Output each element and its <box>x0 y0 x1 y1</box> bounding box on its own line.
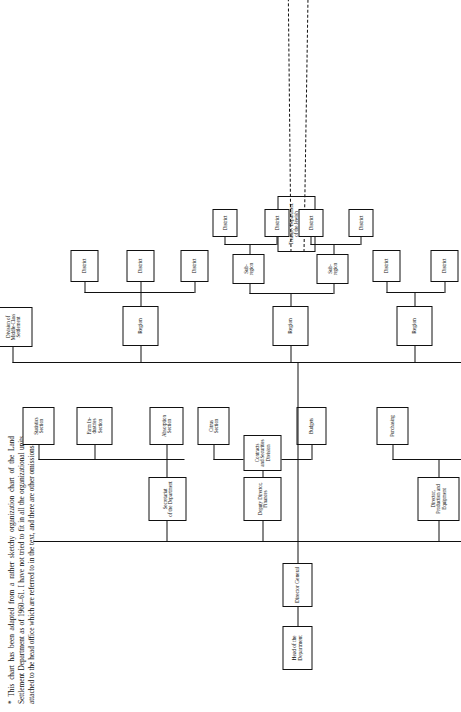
node-district: District <box>126 250 154 282</box>
node-director-general: Director General <box>282 563 312 607</box>
node-label-line: Director General <box>294 567 300 603</box>
node-label-line: Section <box>97 417 102 434</box>
connector-regions-to-region-2 <box>290 345 291 363</box>
connector-subregion-b-to-district-a <box>310 236 311 245</box>
connector-region-3-spine <box>386 292 444 293</box>
node-citrus-section: Citrus Section <box>197 407 229 445</box>
connector-production-spine <box>392 459 461 460</box>
node-label-line: region <box>248 263 253 275</box>
chart-footnote: * This chart has been adapted from a rat… <box>6 436 37 704</box>
connector-dg-to-secretariat <box>166 520 167 542</box>
connector-subregion-a-stem <box>249 244 250 254</box>
connector-region-1-stem <box>140 292 141 306</box>
node-district: District <box>298 209 323 237</box>
connector-finances-to-budgets <box>311 444 312 460</box>
connector-secretariat-to-farm <box>94 444 95 460</box>
connector-secretariat-spine <box>38 459 184 460</box>
node-label-line: Section <box>38 417 43 434</box>
node-label-line: region <box>332 263 337 275</box>
node-label-line: District <box>441 259 446 273</box>
node-label-line: District <box>358 216 363 230</box>
node-label-line: Region <box>411 318 417 334</box>
node-district: District <box>212 209 237 237</box>
connector-subregion-a-to-district-a <box>224 236 225 245</box>
node-statistics-section: Statistics Section <box>22 407 54 445</box>
node-label-line: Settlement <box>15 314 20 340</box>
node-region: Region <box>396 306 432 346</box>
connector-regions-to-middleclass <box>12 346 13 363</box>
connector-subregion-a-spine <box>224 244 276 245</box>
node-label-line: District <box>274 216 279 230</box>
org-chart-canvas: * This chart has been adapted from a rat… <box>0 0 461 712</box>
node-farm-industries-section: Farm In- dustries Section <box>76 407 112 445</box>
node-budgets: Budgets <box>296 407 326 445</box>
node-absorption-section: Absorption Section <box>149 407 183 445</box>
node-label-line: Region <box>287 318 293 334</box>
node-division-middle-class-settlement: Division of Middle-Class Settlement <box>0 307 32 347</box>
connector-head-to-dg <box>297 607 298 626</box>
node-deputy-director-finances: Deputy Director, Finances <box>243 477 281 521</box>
node-label-line: District <box>222 216 227 230</box>
node-district: District <box>372 250 400 282</box>
node-label-line: District <box>191 259 196 273</box>
node-secretariat: Secretariat of the Department <box>148 477 186 521</box>
node-region: Region <box>272 306 308 346</box>
connector-dg-to-finances <box>262 520 263 542</box>
node-label-line: Equipment <box>441 484 446 514</box>
connector-region-2-spine <box>249 293 333 294</box>
connector-subregion-b-to-district-b <box>360 236 361 245</box>
node-label-line: Region <box>137 318 143 334</box>
connector-regions-to-region-3 <box>414 345 415 363</box>
connector-secretariat-to-absorption <box>166 444 167 460</box>
connector-region-3-to-district-a <box>386 281 387 293</box>
node-head-of-the-department: Head of the Department <box>282 626 312 670</box>
connector-regions-spine <box>12 362 461 363</box>
connector-dg-to-production <box>438 520 439 542</box>
node-district: District <box>180 250 208 282</box>
node-district: District <box>348 209 373 237</box>
node-director-production-equipment: Director, Production and Equipment <box>417 477 459 521</box>
node-label-line: District <box>383 259 388 273</box>
connector-dg-spine <box>33 541 461 542</box>
connector-secretariat-stem <box>166 459 167 477</box>
node-purchasing: Purchasing <box>376 407 408 445</box>
node-district: District <box>430 250 458 282</box>
connector-secretariat-to-statistics <box>38 444 39 460</box>
connector-region-2-to-subregion-a <box>249 283 250 294</box>
connector-production-to-purchasing <box>392 444 393 460</box>
connector-subregion-b-stem <box>333 244 334 254</box>
node-district: District <box>70 250 98 282</box>
connector-region-1-spine <box>84 292 194 293</box>
node-district: District <box>264 209 289 237</box>
node-label-line: Head of the Department <box>291 628 302 668</box>
connector-subregion-a-to-district-b <box>276 236 277 245</box>
node-label-line: Section <box>213 419 218 434</box>
connector-region-2-stem <box>290 293 291 306</box>
node-label-line: Finances <box>262 483 267 516</box>
connector-region-1-to-district-a <box>84 281 85 293</box>
connector-production-stem <box>438 459 439 477</box>
node-label-line: Purchasing <box>389 415 394 437</box>
connector-dg-stem <box>297 541 298 563</box>
connector-subregion-b-spine <box>310 244 360 245</box>
connector-region-1-to-district-c <box>194 281 195 293</box>
node-label-line: District <box>81 259 86 273</box>
connector-region-2-to-subregion-b <box>333 283 334 294</box>
connector-region-1-to-district-b <box>140 281 141 293</box>
node-label-line: District <box>137 259 142 273</box>
node-sub-region: Sub- region <box>316 254 348 284</box>
node-label-line: of the Department <box>167 481 172 516</box>
connector-regions-to-region-1 <box>140 345 141 363</box>
node-label-line: Section <box>166 415 171 437</box>
node-label-line: Budgets <box>308 418 313 434</box>
node-label-line: Division <box>265 439 270 466</box>
connector-region-3-stem <box>414 292 415 306</box>
connector-region-3-to-district-b <box>444 281 445 293</box>
node-region: Region <box>122 306 158 346</box>
connector-finances-to-citrus <box>213 444 214 460</box>
node-contracts-securities-division: Contracts and Securities Division <box>243 435 281 471</box>
node-sub-region: Sub- region <box>232 254 264 284</box>
connector-dg-to-regions-trunk <box>297 362 298 542</box>
node-label-line: District <box>308 216 313 230</box>
